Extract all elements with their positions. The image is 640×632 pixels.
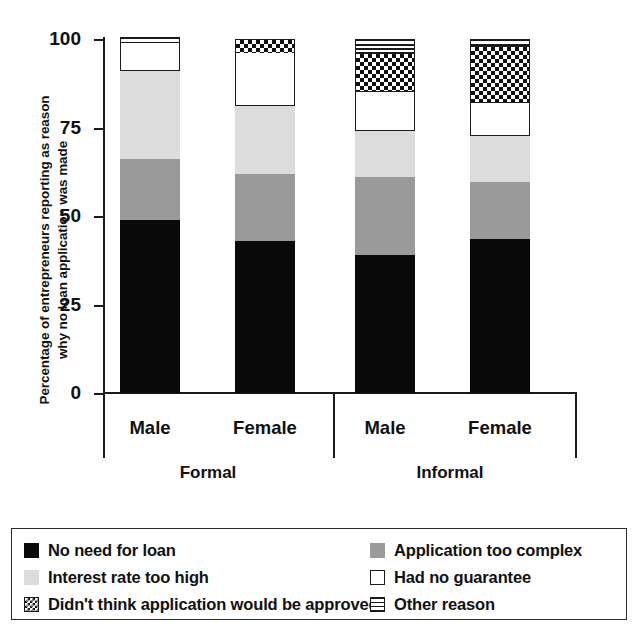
legend-item-other-reason: Other reason <box>370 595 495 614</box>
segment-no-need <box>470 239 530 393</box>
segment-no-need <box>235 241 295 393</box>
x-group-separator-left <box>103 392 105 458</box>
segment-not-approved <box>470 46 530 103</box>
x-label-formal-female: Female <box>233 417 297 439</box>
legend-label: No need for loan <box>48 541 176 560</box>
x-group-label-informal: Informal <box>416 463 483 483</box>
y-tick-label-100: 100 <box>49 28 81 50</box>
striped-square-icon <box>370 597 385 612</box>
segment-rate-high <box>235 106 295 173</box>
x-label-formal-male: Male <box>129 417 170 439</box>
legend-label: Application too complex <box>394 541 582 560</box>
y-tick-label-75: 75 <box>60 117 81 139</box>
plot-area: 100 75 50 25 0 <box>103 39 575 393</box>
y-tick-label-25: 25 <box>60 294 81 316</box>
segment-too-complex <box>120 159 180 219</box>
y-axis-title-line-1: Percentage of entrepreneurs reporting as… <box>36 0 53 500</box>
bar-formal-female <box>235 39 295 393</box>
segment-too-complex <box>355 177 415 255</box>
legend-item-no-guarantee: Had no guarantee <box>370 568 531 587</box>
x-label-informal-female: Female <box>468 417 532 439</box>
x-group-separator-right <box>575 392 577 458</box>
segment-no-need <box>355 255 415 393</box>
white-square-icon <box>370 570 385 585</box>
segment-rate-high <box>120 71 180 160</box>
legend: No need for loan Application too complex… <box>11 528 627 620</box>
y-tick-0: 0 <box>94 393 103 395</box>
checkerboard-square-icon <box>24 597 39 612</box>
y-axis-title-line-2: why no loan application was made <box>54 0 71 500</box>
bar-informal-male <box>355 39 415 393</box>
y-tick-100: 100 <box>94 39 103 41</box>
segment-no-guarantee <box>235 53 295 106</box>
segment-rate-high <box>470 136 530 182</box>
legend-item-rate-high: Interest rate too high <box>24 568 370 587</box>
legend-item-too-complex: Application too complex <box>370 541 582 560</box>
x-label-informal-male: Male <box>364 417 405 439</box>
segment-no-guarantee <box>355 92 415 131</box>
segment-no-need <box>120 220 180 394</box>
y-tick-75: 75 <box>94 128 103 130</box>
bar-formal-male <box>120 37 180 393</box>
black-square-icon <box>24 543 39 558</box>
segment-too-complex <box>470 182 530 239</box>
y-tick-label-50: 50 <box>60 205 81 227</box>
legend-label: Interest rate too high <box>48 568 209 587</box>
gray-square-icon <box>370 543 385 558</box>
bar-informal-female <box>470 39 530 393</box>
y-tick-25: 25 <box>94 305 103 307</box>
x-group-separator-middle <box>333 392 335 458</box>
segment-too-complex <box>235 174 295 241</box>
y-tick-label-0: 0 <box>70 382 81 404</box>
segment-not-approved <box>235 39 295 53</box>
legend-label: Had no guarantee <box>394 568 531 587</box>
y-tick-50: 50 <box>94 216 103 218</box>
legend-item-no-need: No need for loan <box>24 541 370 560</box>
segment-not-approved <box>355 53 415 92</box>
legend-item-not-approved: Didn't think application would be approv… <box>24 595 370 614</box>
segment-other-reason <box>355 39 415 53</box>
segment-rate-high <box>355 131 415 177</box>
stacked-bar-chart: Percentage of entrepreneurs reporting as… <box>0 0 640 632</box>
legend-label: Other reason <box>394 595 495 614</box>
x-group-label-formal: Formal <box>180 463 237 483</box>
segment-no-guarantee <box>470 103 530 137</box>
y-axis-title: Percentage of entrepreneurs reporting as… <box>0 0 54 512</box>
legend-label: Didn't think application would be approv… <box>48 595 378 614</box>
segment-other-reason <box>470 39 530 46</box>
lightgray-square-icon <box>24 570 39 585</box>
segment-no-guarantee <box>120 43 180 71</box>
